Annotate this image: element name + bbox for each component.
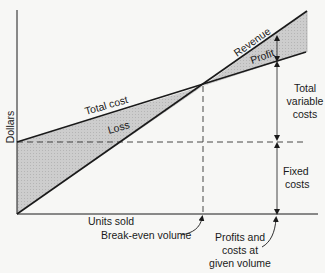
fixed-costs-label-1: Fixed xyxy=(283,165,309,177)
revenue-line xyxy=(17,11,307,214)
total-variable-costs-label-1: Total xyxy=(294,82,316,94)
fixed-costs-label-2: costs xyxy=(285,178,310,190)
total-cost-line xyxy=(17,52,306,142)
total-variable-costs-label-3: costs xyxy=(293,108,318,120)
given-volume-label-3: given volume xyxy=(209,257,271,269)
total-variable-costs-label-2: variable xyxy=(287,95,324,107)
y-axis-label: Dollars xyxy=(4,111,16,144)
break-even-chart: Dollars Units sold Total cost Loss Reven… xyxy=(0,0,325,273)
given-volume-label-2: costs at xyxy=(222,244,258,256)
x-axis-label: Units sold xyxy=(88,215,134,227)
given-volume-label-1: Profits and xyxy=(215,231,265,243)
break-even-volume-label: Break-even volume xyxy=(101,229,192,241)
